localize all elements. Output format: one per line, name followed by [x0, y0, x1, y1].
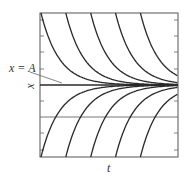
solution-curve-above: [91, 13, 178, 84]
solution-curves-plot: [0, 0, 189, 178]
y-axis-label: x: [24, 83, 36, 88]
solution-curve-above: [116, 13, 178, 83]
solution-curve-below: [140, 94, 177, 157]
equilibrium-label: x = A: [9, 62, 36, 74]
solution-curve-below: [91, 86, 178, 157]
solution-curve-above: [140, 13, 177, 76]
solution-curve-below: [66, 85, 178, 157]
solution-curve-above: [66, 13, 178, 85]
solution-curve-above: [41, 13, 178, 85]
solution-curve-below: [41, 85, 178, 157]
solution-curve-below: [116, 87, 178, 157]
x-axis-label: t: [107, 162, 110, 174]
